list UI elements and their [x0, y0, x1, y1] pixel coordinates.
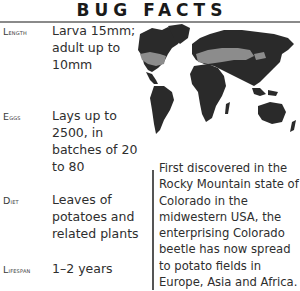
fact-value-length: Larva 15mm; adult up to 10mm [52, 22, 142, 73]
fact-value-eggs: Lays up to 2500, in batches of 20 to 80 [52, 107, 142, 175]
title-rule [0, 21, 300, 23]
fact-label-diet: Diet [3, 195, 19, 206]
fact-label-eggs: Eggs [3, 111, 21, 122]
page-title: BUG FACTS [0, 0, 300, 20]
fact-value-diet: Leaves of potatoes and related plants [52, 191, 142, 242]
blurb-text: First discovered in the Rocky Mountain s… [159, 160, 300, 290]
fact-label-length: Length [3, 26, 27, 37]
fact-label-lifespan: Lifespan [3, 264, 30, 275]
blurb-divider [152, 170, 154, 290]
world-map-image [138, 24, 300, 152]
fact-value-lifespan: 1–2 years [52, 260, 142, 277]
